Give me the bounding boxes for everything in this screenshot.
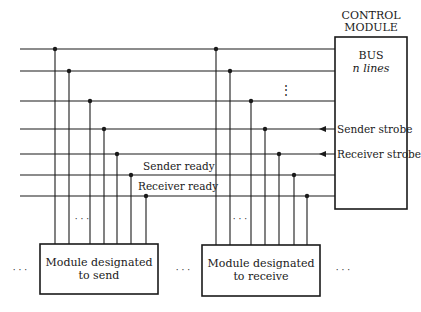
bus-lines-label: n lines [353, 62, 390, 75]
bus-diagram: CONTROL MODULE BUS n lines ⋮ Sender stro… [0, 0, 421, 312]
receiver-module-line2: to receive [233, 270, 288, 283]
receiver-taps [214, 47, 309, 245]
receiver-strobe-label: Receiver strobe [337, 148, 421, 160]
sender-module-line1: Module designated [46, 256, 153, 269]
vertical-ellipsis: ⋮ [280, 83, 292, 97]
sender-taps [53, 47, 148, 244]
sender-strobe-label: Sender strobe [337, 123, 412, 135]
bus-label: BUS [359, 49, 384, 62]
sender-tap-ellipsis: · · · [75, 214, 89, 224]
control-module-title-2: MODULE [344, 21, 398, 34]
middle-ellipsis: · · · [176, 265, 190, 275]
receiver-module-line1: Module designated [208, 257, 315, 270]
receiver-tap-ellipsis: · · · [233, 214, 247, 224]
strobe-arrows [319, 126, 326, 157]
receiver-strobe-arrow-icon [319, 151, 326, 157]
receiver-ready-label: Receiver ready [138, 180, 218, 192]
sender-strobe-arrow-icon [319, 126, 326, 132]
sender-ready-label: Sender ready [143, 160, 215, 172]
left-ellipsis: · · · [13, 265, 27, 275]
sender-module-line2: to send [79, 269, 120, 282]
right-ellipsis: · · · [336, 265, 350, 275]
